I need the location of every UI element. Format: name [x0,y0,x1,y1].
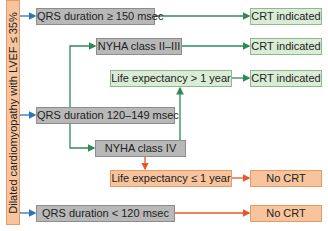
node-qrs-lt120: QRS duration < 120 msec [36,205,175,222]
node-life-expectancy-le1: Life expectancy ≤ 1 year [110,170,232,187]
outcome-crt-indicated-3: CRT indicated [250,70,322,87]
root-condition: Dilated cardiomyopathy with LVEF ≤ 35% [6,0,20,225]
node-qrs-120-149: QRS duration 120–149 msec [36,107,175,124]
outcome-no-crt-2: No CRT [250,205,322,222]
node-nyha-4: NYHA class IV [95,140,186,157]
outcome-crt-indicated-1: CRT indicated [250,8,322,25]
outcome-crt-indicated-2: CRT indicated [250,38,322,55]
root-label: Dilated cardiomyopathy with LVEF ≤ 35% [7,12,19,213]
outcome-no-crt-1: No CRT [250,170,322,187]
node-nyha-2-3: NYHA class II–III [96,38,182,55]
node-life-expectancy-gt1: Life expectancy > 1 year [110,70,232,87]
node-qrs-ge150: QRS duration ≥ 150 msec [36,8,155,25]
